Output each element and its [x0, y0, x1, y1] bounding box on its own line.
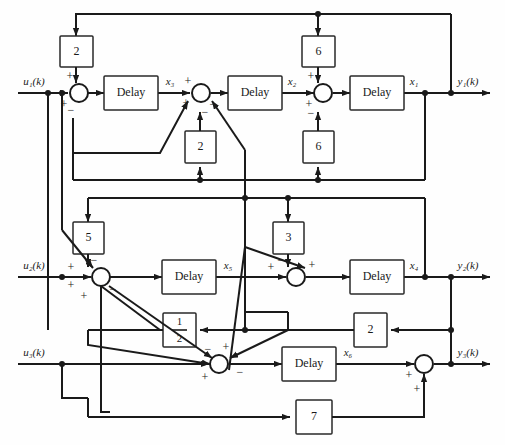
gain-2-top-left-label: 2	[74, 44, 80, 58]
gain-3-label: 3	[286, 230, 292, 244]
delay-block-x6: Delay	[282, 347, 336, 381]
gain-2-mid-label: 2	[198, 139, 204, 153]
sign-sum-u2-bottom: +	[81, 289, 88, 303]
sign-sum-u3-upright: +	[223, 340, 230, 354]
junction-dot-u1-rail	[45, 90, 51, 96]
gain-6-lower-label: 6	[316, 139, 322, 153]
gain-5-label: 5	[86, 230, 92, 244]
sign-sum-x1in-bottom: −	[308, 106, 315, 120]
state-label-x3: x₃	[165, 75, 175, 87]
summer-y3	[415, 355, 433, 373]
gain-6-top-label: 6	[316, 44, 322, 58]
sign-sum-y3-left: +	[406, 368, 413, 382]
sign-sum-u1-top: +	[67, 69, 74, 83]
sign-sum-x2in-left: +	[185, 74, 192, 88]
input-label-u1: u₁(k)	[23, 75, 45, 88]
state-label-x5: x₅	[223, 259, 233, 271]
sign-sum-u2-diag: +	[68, 260, 75, 274]
input-label-u2: u₂(k)	[23, 259, 45, 272]
sign-sum-x4in-right: +	[309, 258, 316, 272]
input-label-u3: u₃(k)	[23, 346, 45, 359]
sign-sum-u2-left: +	[68, 278, 75, 292]
delay-x2-label: Delay	[241, 85, 270, 99]
output-label-y2: y₂(k)	[457, 259, 479, 272]
gain-7-label: 7	[311, 409, 317, 423]
delay-x6-label: Delay	[295, 356, 324, 370]
sign-sum-x1in-top: +	[308, 69, 315, 83]
junction-dot-bus1-a	[197, 177, 203, 183]
gain-half-numerator: 1	[177, 315, 183, 327]
sign-sum-u1-bottom: −	[68, 103, 75, 117]
sign-sum-u2-top: −	[91, 253, 98, 267]
delay-x1-label: Delay	[363, 85, 392, 99]
summer-x4in	[287, 268, 305, 286]
sign-sum-u3-right: −	[237, 365, 244, 379]
delay-x4-label: Delay	[363, 269, 392, 283]
output-label-y1: y₁(k)	[457, 75, 479, 88]
summer-u2	[92, 268, 110, 286]
delay-block-x4: Delay	[350, 260, 404, 294]
state-label-x2: x₂	[287, 75, 297, 87]
state-label-x1: x₁	[409, 75, 419, 87]
summer-x1in	[314, 84, 332, 102]
state-label-x6: x₆	[343, 346, 353, 358]
state-label-x4: x₄	[409, 259, 419, 271]
sign-sum-x2in-bottom: −	[202, 105, 209, 119]
output-label-y3: y₃(k)	[457, 346, 479, 359]
gain-2-right-label: 2	[368, 322, 374, 336]
summer-u1	[70, 84, 88, 102]
delay-block-x3: Delay	[104, 76, 158, 110]
summer-x2in	[192, 84, 210, 102]
delay-x3-label: Delay	[117, 85, 146, 99]
sign-sum-x4in-left: +	[268, 260, 275, 274]
delay-block-x5: Delay	[162, 260, 216, 294]
sign-sum-u3-left: +	[202, 370, 209, 384]
delay-block-x2: Delay	[228, 76, 282, 110]
junction-dot-u2	[59, 274, 65, 280]
junction-dot	[315, 11, 321, 17]
junction-dot-bus1-b	[315, 177, 321, 183]
summer-u3	[210, 355, 228, 373]
block-diagram-canvas: 2 6 Delay Delay Delay + + − + + − − + + …	[0, 0, 505, 445]
delay-x5-label: Delay	[175, 269, 204, 283]
delay-block-x1: Delay	[350, 76, 404, 110]
sign-sum-y3-bottom: +	[414, 382, 421, 396]
